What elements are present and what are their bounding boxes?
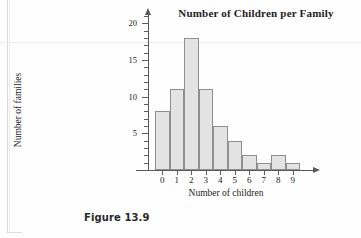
figure-caption: Figure 13.9	[84, 212, 150, 223]
y-axis-major-tick	[142, 133, 149, 134]
y-axis-tick-label: 5	[109, 128, 137, 138]
histogram-bar	[242, 155, 257, 170]
y-axis-major-tick	[142, 97, 149, 98]
histogram-bar	[213, 126, 228, 170]
y-axis-minor-tick	[144, 16, 149, 17]
x-axis-title: Number of children	[166, 188, 286, 198]
y-axis-major-tick	[142, 60, 149, 61]
y-axis-minor-tick	[144, 111, 149, 112]
histogram-bar	[286, 163, 301, 170]
y-axis-minor-tick	[144, 38, 149, 39]
histogram-bar	[170, 89, 185, 170]
y-axis-minor-tick	[144, 126, 149, 127]
y-axis-minor-tick	[144, 82, 149, 83]
histogram-bar	[257, 163, 272, 170]
y-axis-tick-label: 20	[109, 18, 137, 28]
y-axis-tick-label: 15	[109, 55, 137, 65]
x-axis-tick-label: 9	[285, 175, 301, 185]
y-axis-minor-tick	[144, 67, 149, 68]
figure-container: Number of Children per Family 5101520012…	[0, 0, 361, 238]
histogram-bar	[184, 38, 199, 170]
x-axis-arrowhead-icon	[313, 167, 320, 173]
histogram-bar	[199, 89, 214, 170]
histogram-bar	[155, 111, 170, 170]
y-axis-minor-tick	[144, 119, 149, 120]
y-axis-minor-tick	[144, 155, 149, 156]
y-axis-minor-tick	[144, 163, 149, 164]
y-axis-minor-tick	[144, 53, 149, 54]
y-axis-minor-tick	[144, 75, 149, 76]
histogram-bar	[228, 141, 243, 170]
y-axis-tick-label: 10	[109, 92, 137, 102]
y-axis-minor-tick	[144, 104, 149, 105]
y-axis-minor-tick	[144, 45, 149, 46]
y-axis-minor-tick	[144, 148, 149, 149]
y-axis-minor-tick	[144, 141, 149, 142]
histogram-bar	[271, 155, 286, 170]
y-axis-arrowhead-icon	[145, 8, 151, 15]
y-axis-title: Number of families	[13, 65, 23, 155]
y-axis-minor-tick	[144, 89, 149, 90]
y-axis-minor-tick	[144, 31, 149, 32]
histogram-plot-area: 51015200123456789	[0, 0, 361, 238]
y-axis-major-tick	[142, 23, 149, 24]
